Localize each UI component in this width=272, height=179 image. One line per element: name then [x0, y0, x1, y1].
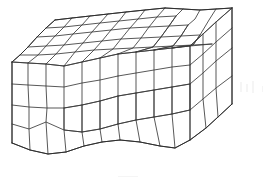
- noise-speck-2: [246, 84, 248, 92]
- face-fills: [12, 8, 232, 154]
- noise-speck-4: [262, 86, 263, 92]
- block-mesh-diagram: [0, 0, 272, 179]
- figure-root: Wireframe parallelepiped block model wit…: [0, 0, 272, 179]
- noise-speck-3: [252, 81, 254, 93]
- noise-speck-5: [118, 176, 138, 177]
- noise-speck-1: [240, 82, 242, 92]
